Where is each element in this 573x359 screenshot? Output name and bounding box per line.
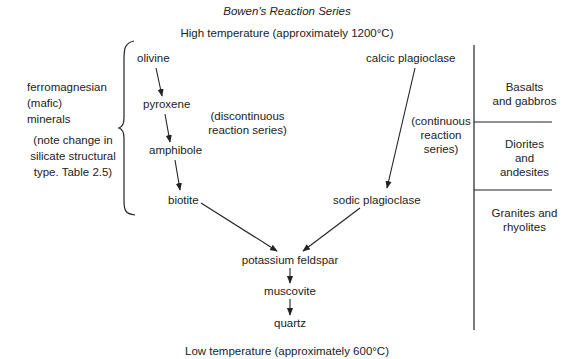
low-temperature-label: Low temperature (approximately 600°C) bbox=[177, 344, 397, 359]
discontinuous-series-label: (discontinuous reaction series) bbox=[200, 109, 295, 137]
note-line-1: (note change in bbox=[17, 132, 129, 148]
mineral-sodic-plagioclase: sodic plagioclase bbox=[333, 193, 421, 208]
diorites-line-3: andesites bbox=[476, 165, 573, 179]
basalts-line-1: Basalts bbox=[476, 80, 573, 94]
continuous-line-2: reaction bbox=[409, 128, 473, 142]
curly-brace bbox=[119, 41, 135, 215]
mineral-pyroxene: pyroxene bbox=[143, 97, 190, 112]
mineral-quartz: quartz bbox=[260, 316, 320, 331]
diorites-line-1: Diorites bbox=[476, 137, 573, 151]
basalts-line-2: and gabbros bbox=[476, 94, 573, 108]
ferromagnesian-line: ferromagnesian bbox=[27, 80, 107, 95]
note-line-2: silicate structural bbox=[17, 148, 129, 164]
discontinuous-line-1: (discontinuous bbox=[200, 109, 295, 123]
rock-type-granites: Granites and rhyolites bbox=[476, 206, 573, 234]
mineral-olivine: olivine bbox=[137, 51, 170, 66]
minerals-line: minerals bbox=[27, 112, 107, 127]
arrow-amphibole-biotite bbox=[175, 160, 180, 190]
rock-type-diorites: Diorites and andesites bbox=[476, 137, 573, 179]
arrow-biotite-kfeldspar bbox=[201, 203, 277, 251]
arrow-sodic-kfeldspar bbox=[303, 208, 360, 251]
note-line-3: type. Table 2.5) bbox=[17, 164, 129, 180]
arrow-olivine-pyroxene bbox=[156, 68, 162, 96]
diorites-line-2: and bbox=[476, 151, 573, 165]
mineral-amphibole: amphibole bbox=[149, 143, 202, 158]
continuous-line-3: series) bbox=[409, 142, 473, 156]
diagram-title: Bowen's Reaction Series bbox=[187, 4, 387, 19]
continuous-series-label: (continuous reaction series) bbox=[409, 114, 473, 156]
structural-note: (note change in silicate structural type… bbox=[17, 132, 129, 180]
continuous-line-1: (continuous bbox=[409, 114, 473, 128]
granites-line-1: Granites and bbox=[476, 206, 573, 220]
high-temperature-label: High temperature (approximately 1200°C) bbox=[167, 26, 407, 41]
granites-line-2: rhyolites bbox=[476, 220, 573, 234]
mineral-muscovite: muscovite bbox=[250, 284, 330, 299]
discontinuous-line-2: reaction series) bbox=[200, 123, 295, 137]
mineral-calcic-plagioclase: calcic plagioclase bbox=[366, 51, 456, 66]
mafic-line: (mafic) bbox=[27, 96, 107, 111]
mineral-biotite: biotite bbox=[168, 193, 199, 208]
ferromagnesian-label: ferromagnesian (mafic) minerals bbox=[27, 80, 107, 127]
mineral-potassium-feldspar: potassium feldspar bbox=[230, 253, 350, 268]
arrow-pyroxene-amphibole bbox=[165, 114, 170, 142]
rock-type-basalts: Basalts and gabbros bbox=[476, 80, 573, 108]
